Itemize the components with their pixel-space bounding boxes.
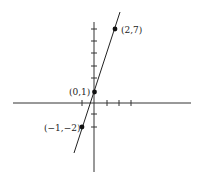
label-2-7: (2,7) xyxy=(121,25,142,35)
label-0-1: (0,1) xyxy=(69,87,90,97)
coordinate-plane: (−1,−2) (0,1) (2,7) xyxy=(0,0,201,178)
point-2-7 xyxy=(113,27,118,32)
label-neg1-neg2: (−1,−2) xyxy=(44,123,80,133)
point-0-1 xyxy=(92,90,97,95)
graph-line xyxy=(74,12,120,153)
